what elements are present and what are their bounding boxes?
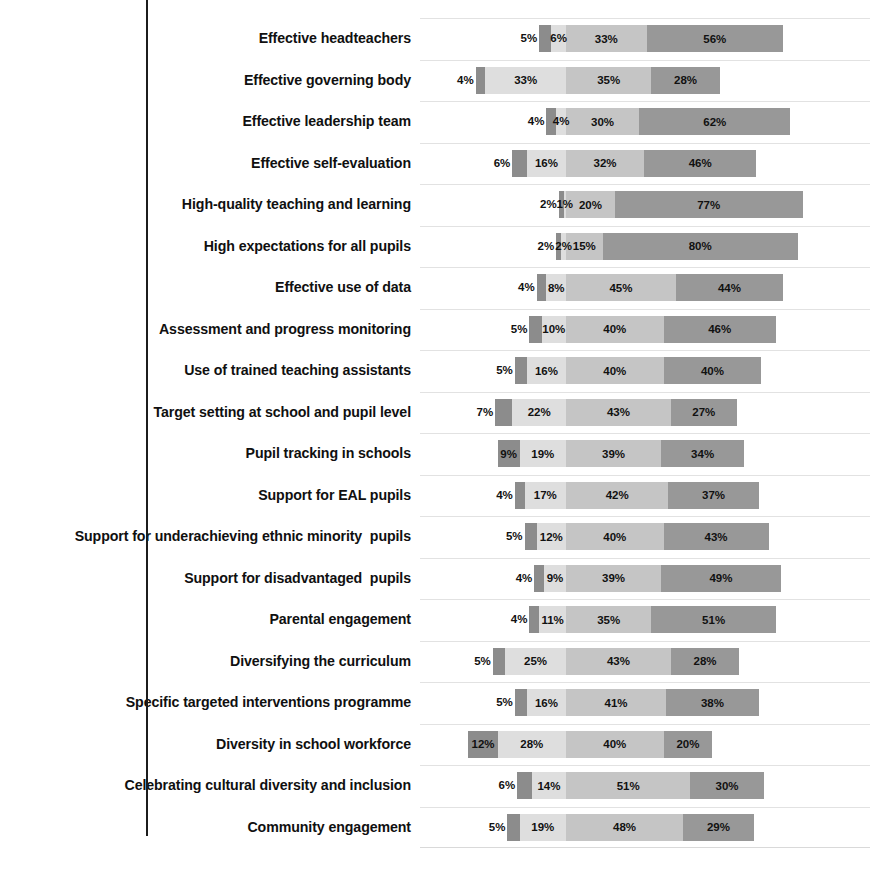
stacked-bar: 4%4%30%62% <box>420 108 870 135</box>
bar-segment-4: 77% <box>615 191 803 218</box>
bar-segment-2: 19% <box>520 440 566 467</box>
stacked-bar: 4%17%42%37% <box>420 482 870 509</box>
bar-row: High-quality teaching and learning2%1%20… <box>0 184 887 226</box>
segment-value-label: 5% <box>487 814 505 841</box>
segment-value-label: 11% <box>541 614 563 626</box>
bar-segment-2: 16% <box>527 150 566 177</box>
segment-value-label: 51% <box>702 614 725 626</box>
bar-row: Effective governing body4%33%35%28% <box>0 60 887 102</box>
bar-segment-4: 43% <box>664 523 769 550</box>
stacked-bar: 4%9%39%49% <box>420 565 870 592</box>
bar-row: Effective use of data4%8%45%44% <box>0 267 887 309</box>
gridline <box>420 143 870 144</box>
bar-segment-1: 9% <box>498 440 520 467</box>
category-label: Support for EAL pupils <box>258 475 411 517</box>
bar-segment-4: 29% <box>683 814 754 841</box>
bar-row: Pupil tracking in schools9%19%39%34% <box>0 433 887 475</box>
segment-value-label: 46% <box>689 157 712 169</box>
segment-value-label: 49% <box>709 572 732 584</box>
category-label: Effective self-evaluation <box>251 143 411 185</box>
segment-value-label: 43% <box>607 655 630 667</box>
segment-value-label: 5% <box>519 25 537 52</box>
bar-segment-4: 51% <box>651 606 775 633</box>
stacked-bar: 5%25%43%28% <box>420 648 870 675</box>
segment-value-label: 41% <box>605 697 628 709</box>
segment-value-label: 4% <box>455 67 473 94</box>
category-label: Effective governing body <box>244 60 411 102</box>
category-label: Community engagement <box>247 807 411 849</box>
bar-segment-4: 30% <box>690 772 763 799</box>
stacked-bar: 6%16%32%46% <box>420 150 870 177</box>
bar-row: Diversity in school workforce12%28%40%20… <box>0 724 887 766</box>
bar-segment-3: 33% <box>566 25 647 52</box>
category-label: Specific targeted interventions programm… <box>126 682 411 724</box>
bar-segment-2: 16% <box>527 357 566 384</box>
gridline <box>420 724 870 725</box>
segment-value-label: 19% <box>531 821 554 833</box>
segment-value-label: 40% <box>603 323 626 335</box>
segment-value-label: 34% <box>691 448 714 460</box>
stacked-bar: 5%12%40%43% <box>420 523 870 550</box>
segment-value-label: 4% <box>494 482 512 509</box>
segment-value-label: 6% <box>492 150 510 177</box>
stacked-bar: 5%10%40%46% <box>420 316 870 343</box>
segment-value-label: 5% <box>494 357 512 384</box>
bar-segment-2: 8% <box>546 274 566 301</box>
category-label: Support for underachieving ethnic minori… <box>75 516 411 558</box>
bar-segment-3: 41% <box>566 689 666 716</box>
bar-segment-2: 9% <box>544 565 566 592</box>
segment-value-label: 6% <box>549 25 567 52</box>
stacked-bar: 5%16%40%40% <box>420 357 870 384</box>
gridline <box>420 226 870 227</box>
segment-value-label: 12% <box>472 738 495 750</box>
gridline <box>420 18 870 19</box>
category-label: Parental engagement <box>269 599 411 641</box>
stacked-bar: 5%19%48%29% <box>420 814 870 841</box>
category-label: Effective leadership team <box>242 101 411 143</box>
stacked-bar: 4%8%45%44% <box>420 274 870 301</box>
segment-value-label: 45% <box>609 282 632 294</box>
category-label: Effective use of data <box>275 267 411 309</box>
segment-value-label: 2% <box>536 233 554 260</box>
stacked-bar: 9%19%39%34% <box>420 440 870 467</box>
segment-value-label: 12% <box>540 531 563 543</box>
segment-value-label: 40% <box>603 365 626 377</box>
bar-segment-2: 11% <box>539 606 566 633</box>
bar-segment-4: 44% <box>676 274 783 301</box>
bar-segment-1 <box>534 565 544 592</box>
segment-value-label: 80% <box>689 240 712 252</box>
bar-segment-1 <box>507 814 519 841</box>
bar-segment-4: 37% <box>668 482 758 509</box>
bar-segment-1 <box>529 606 539 633</box>
bar-segment-4: 46% <box>664 316 776 343</box>
segment-value-label: 9% <box>547 572 564 584</box>
category-label: Support for disadvantaged pupils <box>184 558 411 600</box>
bar-row: Effective leadership team4%4%30%62% <box>0 101 887 143</box>
segment-value-label: 39% <box>602 572 625 584</box>
bar-segment-3: 40% <box>566 357 664 384</box>
stacked-bar: 6%14%51%30% <box>420 772 870 799</box>
bar-segment-2: 12% <box>537 523 566 550</box>
segment-value-label: 33% <box>595 33 618 45</box>
gridline <box>420 516 870 517</box>
bar-segment-1 <box>529 316 541 343</box>
bar-row: Effective self-evaluation6%16%32%46% <box>0 143 887 185</box>
bar-segment-3: 40% <box>566 523 664 550</box>
segment-value-label: 35% <box>597 614 620 626</box>
bar-segment-4: 46% <box>644 150 756 177</box>
category-label: Assessment and progress monitoring <box>159 309 411 351</box>
bar-segment-4: 40% <box>664 357 762 384</box>
segment-value-label: 28% <box>694 655 717 667</box>
segment-value-label: 30% <box>591 116 614 128</box>
segment-value-label: 28% <box>674 74 697 86</box>
segment-value-label: 8% <box>548 282 565 294</box>
bar-segment-4: 49% <box>661 565 781 592</box>
segment-value-label: 40% <box>603 531 626 543</box>
segment-value-label: 16% <box>535 697 558 709</box>
bar-segment-1 <box>517 772 532 799</box>
gridline <box>420 350 870 351</box>
gridline <box>420 392 870 393</box>
segment-value-label: 39% <box>602 448 625 460</box>
segment-value-label: 43% <box>607 406 630 418</box>
bar-segment-4: 62% <box>639 108 790 135</box>
